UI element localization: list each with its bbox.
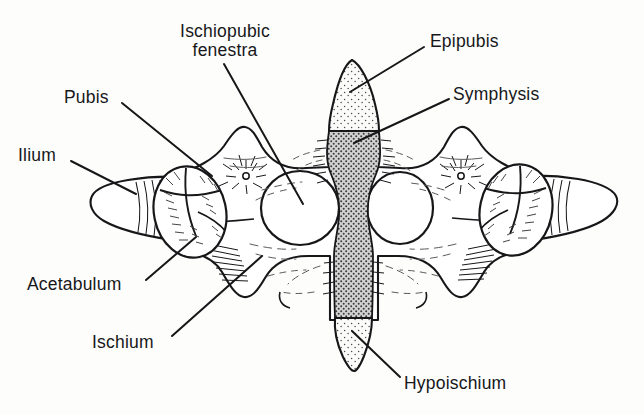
label-acetabulum: Acetabulum — [27, 275, 142, 295]
figure-page: IschiopubicfenestraEpipubisSymphysisPubi… — [0, 0, 644, 415]
label-ischiopubic-fenestra-line-1: Ischiopubic — [160, 22, 290, 41]
label-ilium-line-1: Ilium — [18, 146, 68, 166]
label-symphysis: Symphysis — [453, 85, 553, 105]
label-ischium-line-1: Ischium — [92, 333, 170, 353]
label-hypoischium-line-1: Hypoischium — [404, 374, 529, 394]
label-epipubis: Epipubis — [430, 32, 520, 52]
epipubis-structure — [329, 60, 379, 131]
label-hypoischium: Hypoischium — [404, 374, 529, 394]
pelvis-body — [91, 60, 618, 371]
label-pubis: Pubis — [64, 88, 119, 108]
label-symphysis-line-1: Symphysis — [453, 85, 553, 105]
leader-pubis — [122, 103, 212, 176]
label-acetabulum-line-1: Acetabulum — [27, 275, 142, 295]
label-ischium: Ischium — [92, 333, 170, 353]
left-ischial-notch — [279, 292, 290, 308]
label-ilium: Ilium — [18, 146, 68, 166]
label-ischiopubic-fenestra: Ischiopubicfenestra — [160, 22, 290, 61]
label-epipubis-line-1: Epipubis — [430, 32, 520, 52]
right-ischial-notch — [416, 292, 427, 308]
right-ischiopubic-fenestra — [367, 172, 433, 244]
label-ischiopubic-fenestra-line-2: fenestra — [160, 41, 290, 60]
label-pubis-line-1: Pubis — [64, 88, 119, 108]
pelvis-diagram — [0, 0, 644, 415]
